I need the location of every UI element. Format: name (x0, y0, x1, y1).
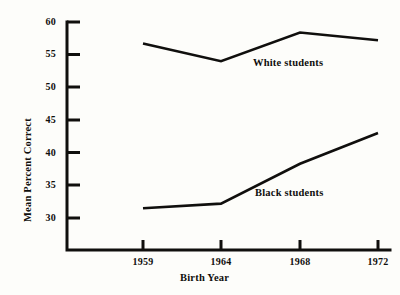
y-tick-label-40: 40 (30, 147, 56, 158)
y-tick-label-55: 55 (30, 48, 56, 59)
line-chart-plot (0, 0, 400, 295)
y-tick-label-60: 60 (30, 16, 56, 27)
series-annotation-black-students: Black students (255, 187, 323, 198)
x-axis-title: Birth Year (180, 272, 229, 283)
x-tick-label-1968: 1968 (280, 256, 320, 267)
y-tick-label-35: 35 (30, 179, 56, 190)
y-tick-label-45: 45 (30, 114, 56, 125)
y-tick-label-50: 50 (30, 81, 56, 92)
chart-container: 60 55 50 45 40 35 30 1959 1964 1968 1972… (0, 0, 400, 295)
y-axis-title: Mean Percent Correct (22, 118, 33, 222)
x-tick-label-1959: 1959 (123, 256, 163, 267)
y-tick-label-30: 30 (30, 212, 56, 223)
x-tick-label-1972: 1972 (358, 256, 398, 267)
axis-lines (67, 22, 390, 250)
series-annotation-white-students: White students (253, 57, 323, 68)
x-tick-label-1964: 1964 (201, 256, 241, 267)
y-axis-ticks (67, 22, 80, 218)
